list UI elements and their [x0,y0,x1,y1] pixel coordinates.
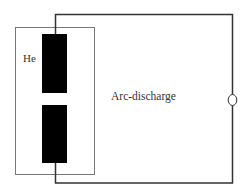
power-source-icon [228,95,237,106]
arc-discharge-diagram: He Arc-discharge [0,0,249,191]
circuit-wire-top [56,15,233,95]
chamber-gas-label: He [23,52,36,64]
upper-electrode [42,34,67,93]
lower-electrode [42,105,67,163]
circuit-wire-bottom [56,106,233,184]
process-label: Arc-discharge [111,90,176,103]
